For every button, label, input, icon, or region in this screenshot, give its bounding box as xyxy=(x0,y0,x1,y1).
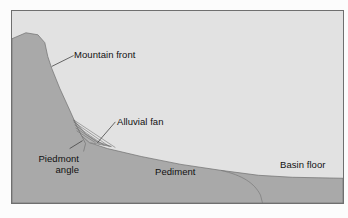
label-piedmont-angle: Piedmont angle xyxy=(17,153,79,175)
label-alluvial-fan: Alluvial fan xyxy=(117,116,164,127)
label-piedmont-angle-line1: Piedmont xyxy=(17,153,79,164)
label-basin-floor: Basin floor xyxy=(280,159,325,170)
label-mountain-front: Mountain front xyxy=(74,49,135,60)
label-piedmont-angle-line2: angle xyxy=(17,164,79,175)
label-pediment: Pediment xyxy=(155,166,196,177)
figure-page: Mountain front Alluvial fan Piedmont ang… xyxy=(0,0,348,218)
diagram-frame: Mountain front Alluvial fan Piedmont ang… xyxy=(11,10,344,204)
